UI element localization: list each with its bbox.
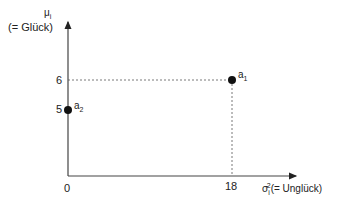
- tick-y6: 6: [56, 75, 62, 86]
- x-axis-label: σi2(= Unglück): [262, 184, 322, 194]
- point-a2: [64, 106, 72, 114]
- y-axis-desc: (= Glück): [8, 22, 53, 33]
- label-a1: a1: [238, 70, 247, 80]
- tick-x18: 18: [225, 181, 237, 192]
- tick-y5: 5: [56, 104, 62, 115]
- y-axis-label: μi: [44, 8, 51, 18]
- point-a1: [228, 76, 236, 84]
- label-a2: a2: [74, 101, 83, 111]
- tick-x0: 0: [64, 183, 70, 194]
